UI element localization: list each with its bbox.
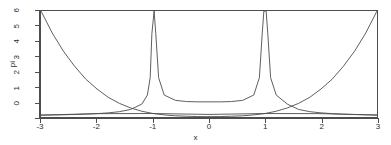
curve-asymptotic-u-curve xyxy=(41,11,377,115)
x-tick-label: 0 xyxy=(199,123,219,131)
y-tick xyxy=(35,41,39,42)
y-tick xyxy=(35,25,39,26)
y-axis-label-wrap: pi xyxy=(6,0,20,145)
x-tick-label: -2 xyxy=(86,123,106,131)
x-tick-label: -3 xyxy=(30,123,50,131)
plot-curves xyxy=(41,11,377,117)
y-tick xyxy=(35,87,39,88)
x-tick-label: -1 xyxy=(143,123,163,131)
chart-figure: 01234567 -3-2-10123 x pi xyxy=(0,0,391,145)
y-axis-line xyxy=(39,10,40,119)
y-tick xyxy=(35,103,39,104)
x-tick-label: 1 xyxy=(255,123,275,131)
y-tick xyxy=(35,72,39,73)
y-axis-label: pi xyxy=(9,42,17,86)
y-tick xyxy=(35,118,39,119)
plot-panel xyxy=(40,10,378,118)
y-tick xyxy=(35,10,39,11)
x-tick-label: 3 xyxy=(368,123,388,131)
x-axis-label: x xyxy=(0,134,391,142)
y-tick xyxy=(35,56,39,57)
x-tick-label: 2 xyxy=(312,123,332,131)
